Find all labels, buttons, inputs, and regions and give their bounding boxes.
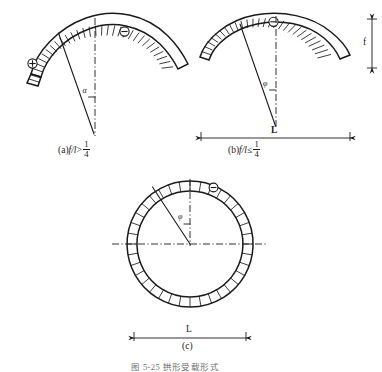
panel-b-angle-label: φ: [263, 79, 268, 88]
panel-b-span-label: L: [271, 125, 277, 135]
panel-b: φ: [200, 13, 377, 141]
panel-a-relation: >: [76, 145, 81, 155]
panel-a-caption-prefix: (a): [58, 145, 69, 155]
panel-a-angle-label: α: [83, 86, 88, 95]
panel-a-fraction-denominator: 4: [83, 150, 90, 159]
panel-a: α: [27, 13, 188, 136]
panel-b-sign-minus: [269, 17, 278, 26]
panel-a-arch-band: [27, 13, 188, 86]
panel-b-ratio: f/l: [239, 145, 247, 155]
panel-c-angle-label: φ: [178, 212, 183, 221]
panel-a-radius-line: [59, 33, 95, 134]
panel-b-caption: (b)f/l≤14: [228, 140, 260, 159]
panel-a-sign-minus: [120, 27, 129, 36]
panel-b-fraction: 14: [253, 140, 260, 159]
panel-c-caption-prefix: (c): [182, 341, 193, 351]
panel-b-radius-line: [240, 24, 276, 126]
panel-c-span-label: L: [186, 324, 192, 334]
panel-b-relation: ≤: [247, 145, 252, 155]
panel-c-radius-line: [153, 187, 191, 244]
panel-c: φ: [112, 179, 268, 341]
panel-b-caption-prefix: (b): [228, 145, 239, 155]
panel-a-sign-plus: [28, 59, 37, 68]
panel-b-fraction-denominator: 4: [253, 150, 260, 159]
panel-c-sign-minus: [209, 183, 218, 192]
panel-b-rise-label: f: [363, 37, 366, 47]
panel-a-fraction: 14: [83, 140, 90, 159]
panel-a-caption: (a)f/l>14: [58, 140, 90, 159]
figure-bottom-caption: 图 5-25 拱形受载形式: [131, 360, 219, 372]
panel-b-rise-dimension: [367, 19, 377, 68]
panel-c-caption: (c): [182, 341, 193, 351]
